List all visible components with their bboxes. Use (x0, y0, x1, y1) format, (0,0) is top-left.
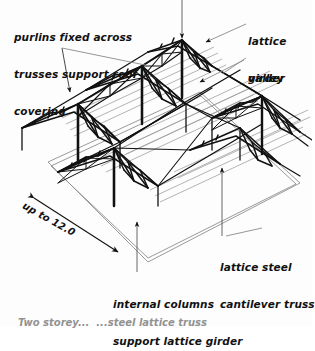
purlins-note-line-1: purlins fixed across (14, 31, 137, 43)
internal-columns-note-line-1: internal columns (113, 298, 242, 310)
cantilever-note-line-1: lattice steel (220, 261, 315, 273)
internal-columns-note: internal columns support lattice girder (113, 273, 242, 351)
internal-columns-note-line-2: support lattice girder (113, 335, 242, 347)
purlins-note-line-2: trusses support roof (14, 68, 137, 80)
valley-note-line-1: valley (248, 72, 284, 84)
valley-note: valley (248, 47, 284, 109)
lattice-girder-note-line-1: lattice (248, 35, 286, 47)
purlins-note: purlins fixed across trusses support roo… (14, 6, 137, 142)
bottom-caption: Two storey... ...steel lattice truss (18, 317, 207, 328)
purlins-note-line-3: covering (14, 105, 137, 117)
